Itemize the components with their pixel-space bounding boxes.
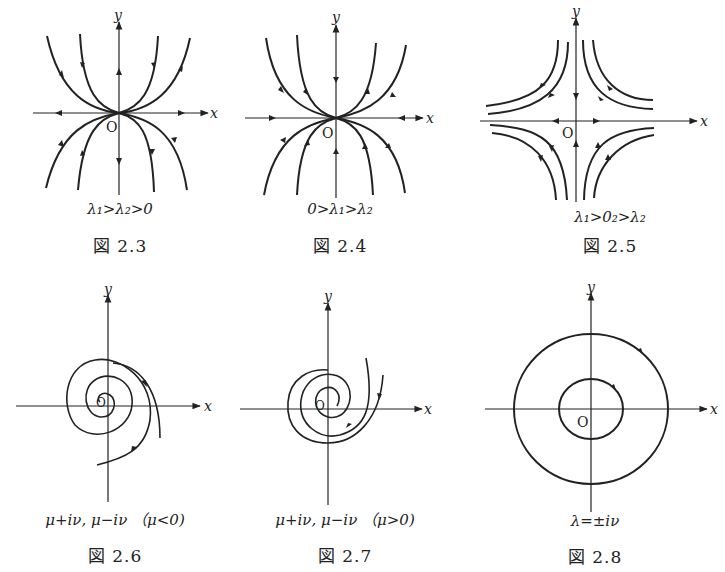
origin-label: O xyxy=(106,119,117,135)
x-axis-label: x xyxy=(700,113,708,129)
origin-label: O xyxy=(577,414,588,430)
condition-2-6: μ+iν, μ−iν （μ<0) xyxy=(15,508,215,529)
x-axis-label: x xyxy=(426,110,434,126)
origin-label: O xyxy=(96,396,106,410)
figure-label-2-7: 図 2.7 xyxy=(255,542,435,567)
x-axis-label: x xyxy=(710,401,718,417)
y-axis-label: y xyxy=(571,3,581,19)
y-axis-label: y xyxy=(586,279,596,295)
phase-portrait-2-3: x y O xyxy=(0,0,250,270)
x-axis-label: x xyxy=(424,401,432,417)
condition-2-4: 0>λ₁>λ₂ xyxy=(240,200,440,218)
y-axis-label: y xyxy=(323,288,333,304)
condition-2-7: μ+iν, μ−iν （μ>0) xyxy=(245,508,445,529)
figure-label-2-3: 図 2.3 xyxy=(0,232,240,257)
figure-label-2-4: 図 2.4 xyxy=(240,232,440,257)
origin-label: O xyxy=(322,125,333,141)
figure-label-2-6: 図 2.6 xyxy=(20,542,210,567)
y-axis-label: y xyxy=(331,9,341,25)
figure-label-2-5: 図 2.5 xyxy=(525,232,695,257)
condition-2-3: λ₁>λ₂>0 xyxy=(0,200,240,218)
condition-2-5: λ₁>0₂>λ₂ xyxy=(520,208,700,226)
origin-label: O xyxy=(562,125,573,141)
phase-portrait-2-5: x y O xyxy=(480,0,725,270)
condition-2-8: λ=±iν xyxy=(540,512,650,530)
y-axis-label: y xyxy=(103,281,113,297)
figure-label-2-8: 図 2.8 xyxy=(520,543,670,568)
x-axis-label: x xyxy=(204,398,212,414)
phase-portrait-2-4: x y O xyxy=(240,0,480,270)
y-axis-label: y xyxy=(113,7,123,23)
x-axis-label: x xyxy=(210,105,218,121)
